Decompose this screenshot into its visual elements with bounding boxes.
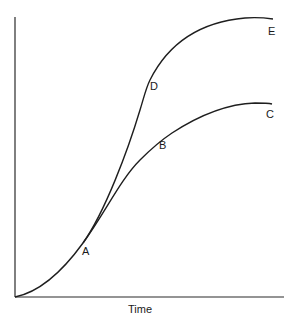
point-label-e: E xyxy=(268,25,275,37)
point-label-d: D xyxy=(150,80,158,92)
upper-curve-ade xyxy=(83,18,273,243)
lower-curve-abc xyxy=(83,103,272,243)
point-label-b: B xyxy=(159,139,166,151)
x-axis-label: Time xyxy=(128,303,152,315)
point-label-c: C xyxy=(266,108,274,120)
growth-curve-diagram: A B C D E Time xyxy=(0,0,295,324)
point-label-a: A xyxy=(82,245,90,257)
shared-curve-segment xyxy=(15,243,83,297)
